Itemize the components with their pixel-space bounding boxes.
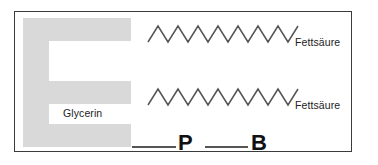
fatty-acid-label-middle: Fettsäure [295, 99, 340, 111]
figure-root: Glycerin Fettsäure Fettsäure P B [0, 0, 378, 165]
fatty-acid-chain-middle [132, 77, 304, 115]
fatty-acid-chain-top [132, 14, 304, 52]
glycerin-backbone-arm-bottom [49, 124, 131, 147]
glycerin-label: Glycerin [63, 107, 102, 119]
base-label: B [251, 132, 267, 154]
fatty-acid-label-top: Fettsäure [295, 36, 340, 48]
glycerin-backbone-spine [23, 18, 49, 147]
glycerin-backbone-arm-top [49, 18, 131, 41]
diagram-frame: Glycerin Fettsäure Fettsäure P B [14, 11, 352, 152]
tail-connector-phosphate-to-base [205, 146, 248, 148]
phosphate-label: P [178, 132, 193, 154]
glycerin-backbone-arm-middle [49, 81, 131, 104]
tail-connector-backbone-to-phosphate [132, 146, 176, 148]
